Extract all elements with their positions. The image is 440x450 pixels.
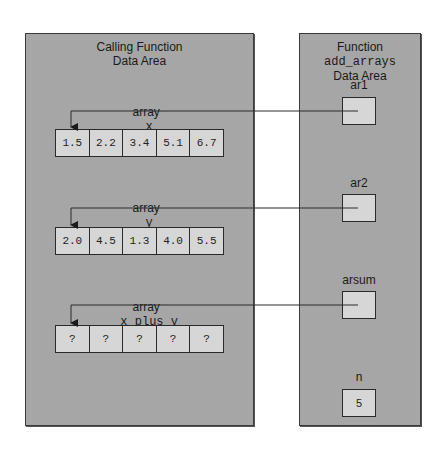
array-x-prefix: array xyxy=(133,105,160,119)
param-n-box: 5 xyxy=(342,389,376,417)
array-x-plus-y-cell: ? xyxy=(90,326,124,352)
array-y-cell: 4.5 xyxy=(90,228,124,254)
add-arrays-title-prefix: Function xyxy=(337,40,383,54)
add-arrays-panel-title: Function add_arrays Data Area xyxy=(300,40,420,83)
array-x-cell: 5.1 xyxy=(157,130,191,156)
array-y-prefix: array xyxy=(133,201,160,215)
calling-panel-title-line2: Data Area xyxy=(26,54,253,68)
param-ar1-box xyxy=(342,97,376,125)
param-n-label: n xyxy=(339,370,379,384)
param-ar2-box xyxy=(342,194,376,222)
calling-panel-title: Calling Function Data Area xyxy=(26,40,253,68)
add-arrays-title-line1: Function add_arrays xyxy=(300,40,420,69)
array-x: 1.5 2.2 3.4 5.1 6.7 xyxy=(55,129,224,157)
array-x-cell: 2.2 xyxy=(90,130,124,156)
array-x-plus-y-cell: ? xyxy=(123,326,157,352)
array-x-plus-y-prefix: array xyxy=(133,300,160,314)
array-y-cell: 4.0 xyxy=(157,228,191,254)
param-ar1-label: ar1 xyxy=(339,78,379,92)
calling-panel-title-line1: Calling Function xyxy=(26,40,253,54)
array-y-cell: 1.3 xyxy=(123,228,157,254)
param-arsum-label: arsum xyxy=(334,273,384,287)
array-x-cell: 3.4 xyxy=(123,130,157,156)
calling-function-panel: Calling Function Data Area array x 1.5 2… xyxy=(25,33,254,426)
array-x-plus-y-cell: ? xyxy=(157,326,191,352)
array-y-cell: 5.5 xyxy=(190,228,223,254)
array-y-cell: 2.0 xyxy=(56,228,90,254)
param-arsum-box xyxy=(342,291,376,319)
array-x-plus-y: ? ? ? ? ? xyxy=(55,325,224,353)
array-x-plus-y-cell: ? xyxy=(56,326,90,352)
add-arrays-function-name: add_arrays xyxy=(324,55,396,69)
array-x-plus-y-cell: ? xyxy=(190,326,223,352)
array-x-cell: 1.5 xyxy=(56,130,90,156)
array-x-cell: 6.7 xyxy=(190,130,223,156)
param-ar2-label: ar2 xyxy=(339,176,379,190)
array-y: 2.0 4.5 1.3 4.0 5.5 xyxy=(55,227,224,255)
